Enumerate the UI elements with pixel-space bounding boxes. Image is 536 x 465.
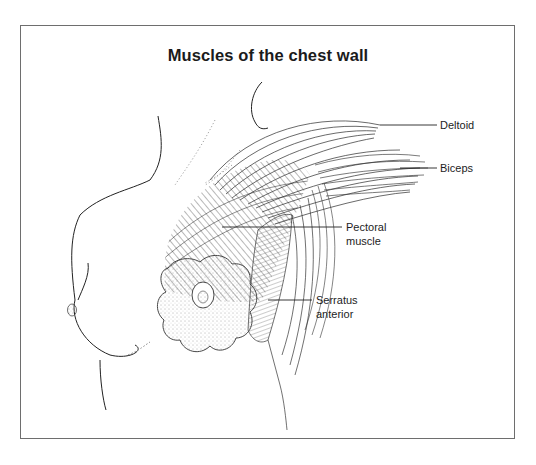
- biceps-muscle: [315, 154, 428, 196]
- shoulder-outline: [251, 82, 268, 129]
- label-serratus-anterior: Serratus anterior: [316, 293, 358, 321]
- body-outline-left: [72, 116, 162, 410]
- nipple: [198, 291, 208, 303]
- nipple-left: [68, 304, 77, 316]
- chest-wall-illustration: [0, 0, 536, 465]
- label-pectoral-line2: muscle: [346, 234, 386, 248]
- label-biceps: Biceps: [440, 161, 473, 175]
- breast-gland: [157, 255, 256, 351]
- label-pectoral-line1: Pectoral: [346, 220, 386, 234]
- serratus-anterior-muscle: [248, 198, 313, 430]
- label-serratus-line1: Serratus: [316, 293, 358, 307]
- label-pectoral-muscle: Pectoral muscle: [346, 220, 386, 248]
- label-serratus-line2: anterior: [316, 307, 358, 321]
- label-deltoid: Deltoid: [440, 118, 474, 132]
